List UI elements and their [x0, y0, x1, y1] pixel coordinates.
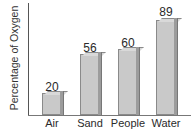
y-axis-label: Percentage of Oxygen — [8, 6, 20, 110]
value-label-sand: 56 — [77, 41, 103, 55]
category-label-air: Air — [32, 117, 72, 129]
value-label-people: 60 — [115, 36, 141, 50]
bar-chart: Percentage of Oxygen 20 Air 56 Sand 60 P… — [0, 0, 193, 133]
category-label-water: Water — [146, 117, 186, 129]
bar-people — [118, 49, 137, 115]
value-label-water: 89 — [153, 5, 179, 19]
category-label-sand: Sand — [70, 117, 110, 129]
y-axis-line — [28, 3, 29, 115]
bar-air — [42, 93, 61, 115]
category-label-people: People — [108, 117, 148, 129]
bar-sand — [80, 54, 99, 115]
value-label-air: 20 — [39, 80, 65, 94]
x-axis-line — [28, 115, 191, 116]
bar-water — [156, 20, 175, 115]
